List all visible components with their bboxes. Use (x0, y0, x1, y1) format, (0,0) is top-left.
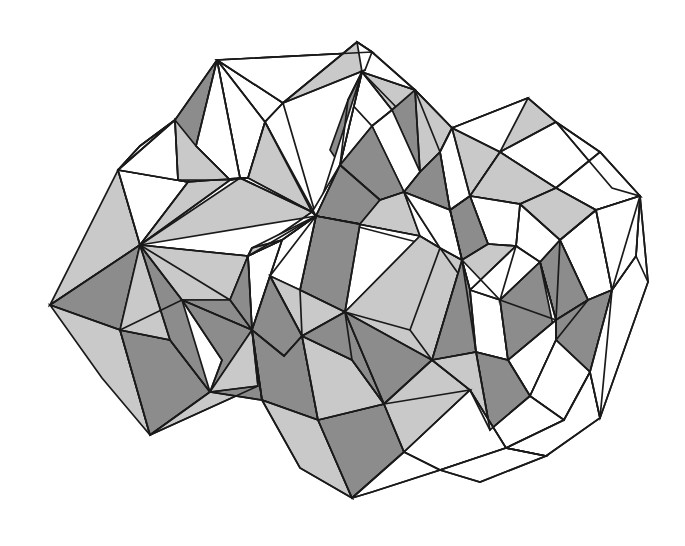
polyhedral-cluster-svg (0, 0, 685, 546)
figure-root: Polyhedral cluster line drawing Flat-sha… (0, 0, 685, 546)
